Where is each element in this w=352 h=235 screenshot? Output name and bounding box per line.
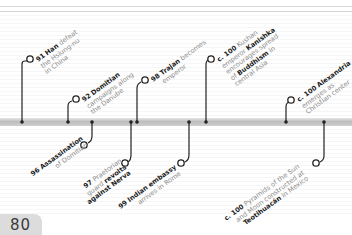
timeline-connectors (0, 0, 352, 235)
page-number: 80 (0, 214, 42, 235)
